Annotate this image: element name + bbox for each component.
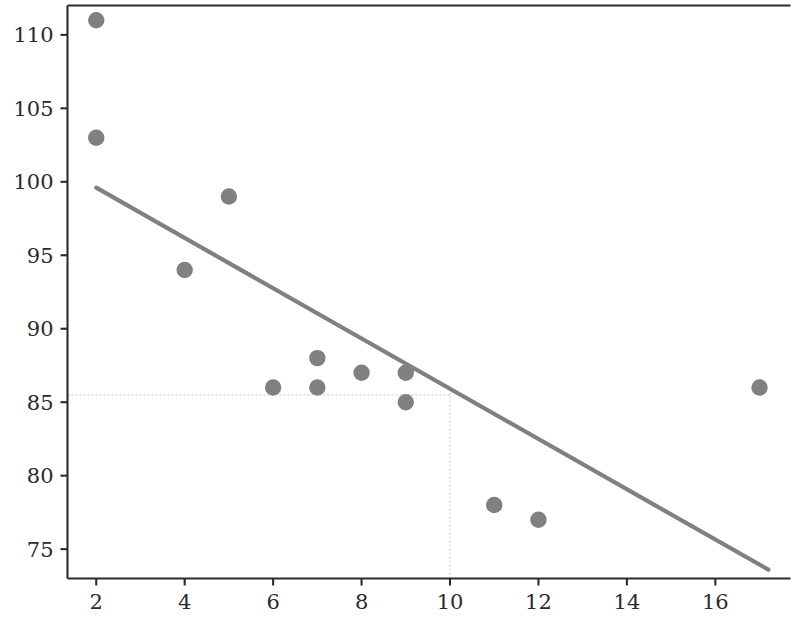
y-tick-label: 90 [27, 317, 54, 341]
data-point [486, 497, 502, 513]
figure-background [0, 0, 798, 628]
y-tick-label: 110 [13, 23, 53, 47]
data-point [353, 365, 369, 381]
y-tick-label: 100 [13, 170, 53, 194]
data-point [176, 262, 192, 278]
x-tick-label: 8 [355, 590, 368, 614]
y-tick-label: 105 [13, 97, 53, 121]
scatter-plot: 246810121416 7580859095100105110 [0, 0, 798, 628]
x-tick-label: 4 [178, 590, 191, 614]
data-point [398, 394, 414, 410]
data-point [221, 188, 237, 204]
y-tick-label: 80 [27, 464, 54, 488]
y-tick-label: 75 [27, 538, 54, 562]
data-point [398, 365, 414, 381]
x-tick-label: 2 [90, 590, 103, 614]
x-tick-label: 16 [702, 590, 729, 614]
data-point [88, 130, 104, 146]
x-tick-label: 6 [266, 590, 279, 614]
data-point [265, 379, 281, 395]
data-point [309, 350, 325, 366]
data-point [530, 512, 546, 528]
y-tick-label: 95 [27, 244, 54, 268]
data-point [309, 379, 325, 395]
data-point [88, 12, 104, 28]
data-point [751, 379, 767, 395]
chart-figure: 246810121416 7580859095100105110 [0, 0, 798, 628]
x-tick-label: 10 [437, 590, 464, 614]
x-tick-label: 14 [614, 590, 641, 614]
y-tick-label: 85 [27, 391, 54, 415]
x-tick-label: 12 [525, 590, 552, 614]
